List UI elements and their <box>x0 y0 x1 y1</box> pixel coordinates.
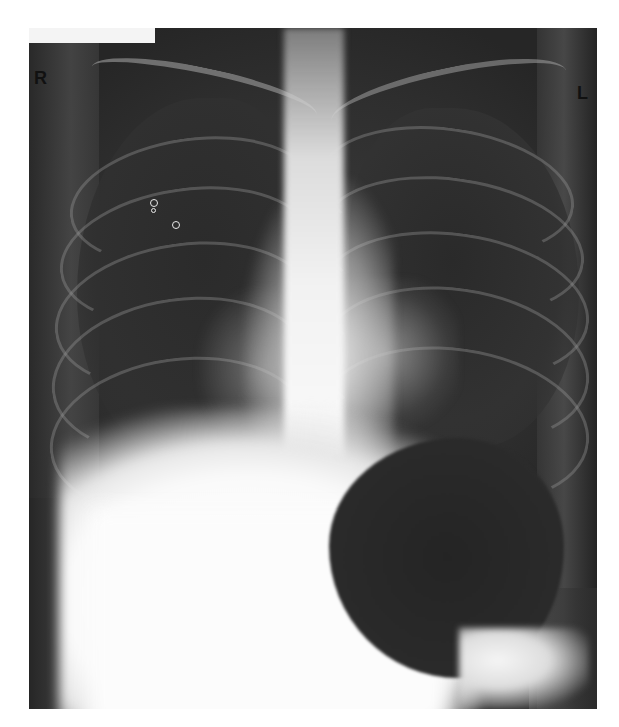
liver-core <box>89 508 449 709</box>
rib <box>311 160 593 332</box>
film-notch <box>29 28 155 43</box>
rib <box>39 341 319 532</box>
ring-marker <box>172 221 180 229</box>
lower-left-flank <box>529 588 597 709</box>
rib <box>309 270 597 462</box>
clavicle-right <box>87 45 322 138</box>
rib <box>310 215 597 397</box>
rib <box>61 121 322 280</box>
left-hilum <box>329 278 459 428</box>
soft-tissue-right <box>537 28 597 709</box>
liver-shadow <box>59 408 479 709</box>
rib <box>51 171 323 341</box>
lateral-chest-wall <box>29 498 74 709</box>
clavicle-left <box>326 44 572 149</box>
rib <box>311 111 582 271</box>
mediastinum <box>244 178 394 478</box>
right-lung-field <box>77 98 307 458</box>
gastric-fundus-contrast <box>459 628 589 709</box>
right-hilum <box>199 288 309 448</box>
ring-marker <box>151 208 156 213</box>
left-lung-field <box>349 108 579 448</box>
rib <box>45 226 324 407</box>
soft-tissue-left <box>29 28 99 709</box>
film-base <box>29 28 597 709</box>
side-marker-l: L <box>577 83 588 104</box>
gastric-bubble <box>329 438 564 678</box>
side-marker-r: R <box>34 68 47 89</box>
ring-marker <box>150 199 158 207</box>
xray-film: R L <box>29 28 597 709</box>
spine <box>284 28 344 458</box>
rib <box>41 281 321 472</box>
rib <box>309 330 597 522</box>
